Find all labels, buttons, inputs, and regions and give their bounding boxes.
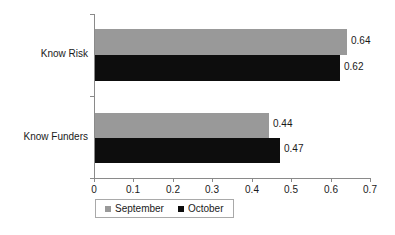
x-axis-tick bbox=[370, 178, 371, 182]
legend-label-september: September bbox=[115, 203, 164, 215]
bar-value-know-risk-october: 0.62 bbox=[344, 61, 363, 73]
bar-value-know-funders-september: 0.44 bbox=[273, 118, 292, 130]
x-axis-tick bbox=[291, 178, 292, 182]
category-label-know-risk: Know Risk bbox=[0, 48, 88, 60]
bar-know-funders-october bbox=[95, 138, 280, 163]
bar-know-risk-september bbox=[95, 29, 347, 55]
x-axis-tick-label: 0.4 bbox=[237, 184, 267, 196]
x-axis-tick bbox=[173, 178, 174, 182]
bar-chart: Know Risk Know Funders 0 0.1 0.2 0.3 0.4… bbox=[0, 0, 395, 235]
category-label-know-funders: Know Funders bbox=[0, 131, 88, 143]
bar-value-know-funders-october: 0.47 bbox=[284, 143, 303, 155]
x-axis-tick-label: 0 bbox=[79, 184, 109, 196]
x-axis-tick-label: 0.7 bbox=[355, 184, 385, 196]
x-axis-line bbox=[94, 178, 371, 179]
x-axis-tick-label: 0.2 bbox=[158, 184, 188, 196]
bar-know-funders-september bbox=[95, 113, 269, 138]
x-axis-tick bbox=[331, 178, 332, 182]
x-axis-tick-label: 0.1 bbox=[118, 184, 148, 196]
chart-legend: September October bbox=[95, 199, 234, 218]
legend-swatch-september-icon bbox=[105, 206, 111, 212]
plot-area: 0 0.1 0.2 0.3 0.4 0.5 0.6 0.7 0.64 0.62 … bbox=[94, 14, 370, 178]
y-axis-tick bbox=[90, 96, 94, 97]
x-axis-tick bbox=[212, 178, 213, 182]
bar-value-know-risk-september: 0.64 bbox=[351, 35, 370, 47]
x-axis-tick bbox=[252, 178, 253, 182]
x-axis-tick bbox=[133, 178, 134, 182]
legend-entry-october[interactable]: October bbox=[178, 203, 224, 215]
legend-entry-september[interactable]: September bbox=[105, 203, 164, 215]
bar-know-risk-october bbox=[95, 55, 340, 81]
legend-label-october: October bbox=[188, 203, 224, 215]
x-axis-tick bbox=[94, 178, 95, 182]
x-axis-tick-label: 0.6 bbox=[316, 184, 346, 196]
legend-swatch-october-icon bbox=[178, 206, 184, 212]
x-axis-tick-label: 0.3 bbox=[197, 184, 227, 196]
y-axis-tick bbox=[90, 14, 94, 15]
x-axis-tick-label: 0.5 bbox=[276, 184, 306, 196]
